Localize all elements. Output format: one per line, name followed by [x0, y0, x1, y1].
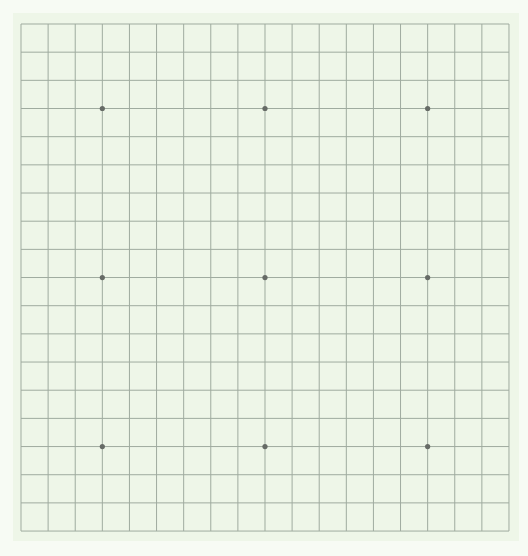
intersection[interactable]	[35, 489, 62, 517]
intersection[interactable]	[62, 123, 89, 151]
intersection[interactable]	[441, 461, 468, 489]
intersection[interactable]	[279, 66, 306, 94]
intersection[interactable]	[387, 292, 414, 320]
intersection[interactable]	[441, 292, 468, 320]
intersection[interactable]	[441, 489, 468, 517]
intersection[interactable]	[468, 179, 495, 207]
intersection[interactable]	[333, 235, 360, 263]
intersection[interactable]	[360, 38, 387, 66]
intersection[interactable]	[197, 432, 224, 460]
intersection[interactable]	[468, 432, 495, 460]
intersection[interactable]	[116, 66, 143, 94]
intersection[interactable]	[62, 38, 89, 66]
intersection[interactable]	[251, 179, 278, 207]
intersection[interactable]	[279, 235, 306, 263]
intersection[interactable]	[7, 207, 34, 235]
intersection[interactable]	[306, 66, 333, 94]
intersection[interactable]	[62, 179, 89, 207]
intersection[interactable]	[279, 517, 306, 545]
intersection[interactable]	[89, 489, 116, 517]
intersection[interactable]	[7, 461, 34, 489]
intersection[interactable]	[35, 123, 62, 151]
intersection[interactable]	[333, 151, 360, 179]
intersection[interactable]	[468, 404, 495, 432]
intersection[interactable]	[224, 179, 251, 207]
intersection[interactable]	[35, 432, 62, 460]
intersection[interactable]	[143, 517, 170, 545]
intersection[interactable]	[143, 320, 170, 348]
intersection[interactable]	[251, 123, 278, 151]
intersection[interactable]	[441, 66, 468, 94]
intersection[interactable]	[387, 432, 414, 460]
intersection[interactable]	[495, 489, 522, 517]
intersection[interactable]	[414, 404, 441, 432]
intersection[interactable]	[279, 263, 306, 291]
intersection[interactable]	[197, 461, 224, 489]
intersection[interactable]	[333, 10, 360, 38]
intersection[interactable]	[224, 432, 251, 460]
intersection[interactable]	[170, 432, 197, 460]
intersection[interactable]	[143, 38, 170, 66]
intersection[interactable]	[224, 151, 251, 179]
intersection[interactable]	[495, 66, 522, 94]
intersection[interactable]	[251, 207, 278, 235]
intersection[interactable]	[197, 179, 224, 207]
intersection[interactable]	[116, 348, 143, 376]
intersection[interactable]	[89, 404, 116, 432]
intersection[interactable]	[333, 376, 360, 404]
intersection[interactable]	[360, 207, 387, 235]
intersection[interactable]	[143, 151, 170, 179]
intersection[interactable]	[224, 94, 251, 122]
intersection[interactable]	[414, 461, 441, 489]
intersection[interactable]	[7, 404, 34, 432]
intersection[interactable]	[306, 179, 333, 207]
intersection[interactable]	[360, 517, 387, 545]
intersection[interactable]	[197, 376, 224, 404]
intersection[interactable]	[306, 235, 333, 263]
intersection[interactable]	[495, 179, 522, 207]
intersection[interactable]	[89, 432, 116, 460]
intersection[interactable]	[468, 263, 495, 291]
intersection[interactable]	[7, 432, 34, 460]
intersection[interactable]	[143, 263, 170, 291]
intersection[interactable]	[279, 94, 306, 122]
intersection[interactable]	[35, 263, 62, 291]
intersection[interactable]	[116, 235, 143, 263]
intersection[interactable]	[116, 94, 143, 122]
intersection[interactable]	[170, 94, 197, 122]
intersection[interactable]	[468, 461, 495, 489]
intersection[interactable]	[468, 376, 495, 404]
intersection[interactable]	[387, 320, 414, 348]
intersection[interactable]	[306, 38, 333, 66]
intersection[interactable]	[224, 123, 251, 151]
intersection[interactable]	[89, 123, 116, 151]
intersection[interactable]	[89, 461, 116, 489]
intersection[interactable]	[468, 292, 495, 320]
intersection[interactable]	[143, 123, 170, 151]
intersection[interactable]	[143, 404, 170, 432]
intersection[interactable]	[143, 348, 170, 376]
intersection[interactable]	[62, 348, 89, 376]
intersection[interactable]	[468, 320, 495, 348]
intersection[interactable]	[35, 320, 62, 348]
intersection[interactable]	[7, 348, 34, 376]
intersection[interactable]	[279, 292, 306, 320]
intersection[interactable]	[414, 66, 441, 94]
intersection[interactable]	[468, 123, 495, 151]
intersection[interactable]	[414, 235, 441, 263]
intersection[interactable]	[414, 517, 441, 545]
intersection[interactable]	[170, 489, 197, 517]
intersection[interactable]	[306, 320, 333, 348]
intersection[interactable]	[495, 461, 522, 489]
intersection[interactable]	[306, 489, 333, 517]
intersection[interactable]	[441, 207, 468, 235]
intersection[interactable]	[62, 151, 89, 179]
intersection[interactable]	[197, 38, 224, 66]
intersection[interactable]	[441, 404, 468, 432]
intersection[interactable]	[495, 10, 522, 38]
intersection[interactable]	[279, 123, 306, 151]
intersection[interactable]	[414, 292, 441, 320]
go-board[interactable]	[0, 0, 528, 556]
intersection[interactable]	[224, 348, 251, 376]
intersection[interactable]	[116, 207, 143, 235]
